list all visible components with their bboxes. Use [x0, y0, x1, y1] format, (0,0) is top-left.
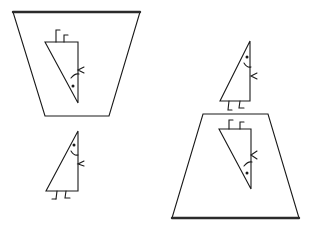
eye-icon	[246, 172, 249, 175]
eye-icon	[246, 56, 249, 59]
panel-outline	[172, 114, 299, 218]
standing-character-right	[220, 41, 257, 110]
reflected-character-top-left	[45, 30, 84, 103]
top-left-panel	[13, 12, 140, 116]
diagram-canvas	[0, 0, 318, 231]
standing-character-bottom-left	[46, 131, 84, 199]
eye-icon	[72, 85, 75, 88]
eye-icon	[73, 144, 76, 147]
bottom-right-panel	[172, 114, 299, 218]
reflected-character-bottom-right	[219, 120, 257, 189]
